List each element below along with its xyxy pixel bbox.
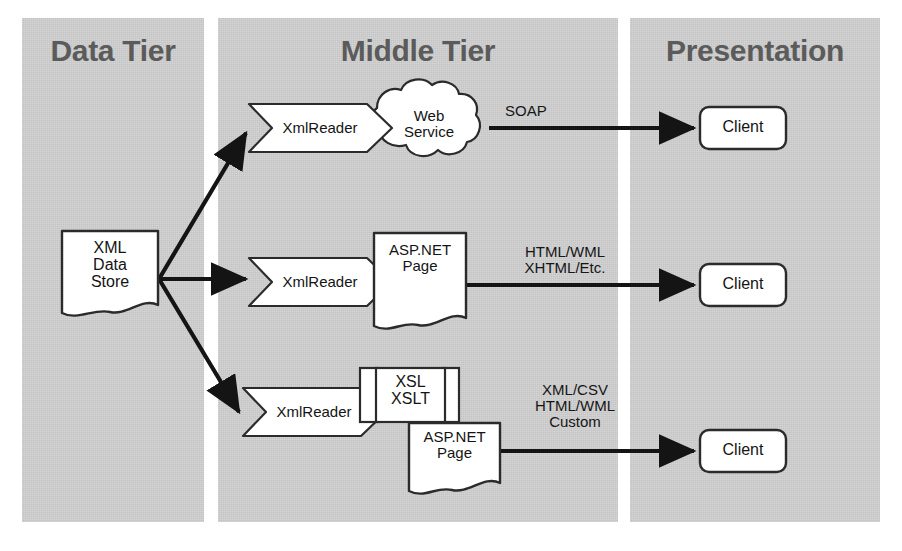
diagram-canvas: Data Tier Middle Tier Presentation bbox=[0, 0, 902, 551]
node-label-client-bottom: Client bbox=[700, 442, 786, 459]
tier-title-data: Data Tier bbox=[22, 36, 204, 66]
tier-title-presentation: Presentation bbox=[630, 36, 880, 66]
node-label-xml-data-store: XML Data Store bbox=[62, 240, 158, 291]
node-label-aspnet-page-middle: ASP.NET Page bbox=[374, 242, 466, 274]
node-label-xsl-xslt: XSL XSLT bbox=[376, 374, 445, 408]
node-label-xmlreader-top: XmlReader bbox=[264, 120, 376, 136]
edge-label-soap: SOAP bbox=[505, 103, 595, 119]
node-label-aspnet-page-bottom: ASP.NET Page bbox=[409, 429, 500, 461]
edge-label-xml-csv: XML/CSV HTML/WML Custom bbox=[510, 382, 640, 430]
edge-label-html-wml: HTML/WML XHTML/Etc. bbox=[500, 244, 630, 276]
node-label-xmlreader-middle: XmlReader bbox=[264, 274, 376, 290]
node-label-web-service: Web Service bbox=[386, 108, 472, 140]
node-label-client-top: Client bbox=[700, 119, 786, 136]
node-label-xmlreader-bottom: XmlReader bbox=[258, 404, 370, 420]
node-label-client-middle: Client bbox=[700, 276, 786, 293]
tier-title-middle: Middle Tier bbox=[218, 36, 618, 66]
